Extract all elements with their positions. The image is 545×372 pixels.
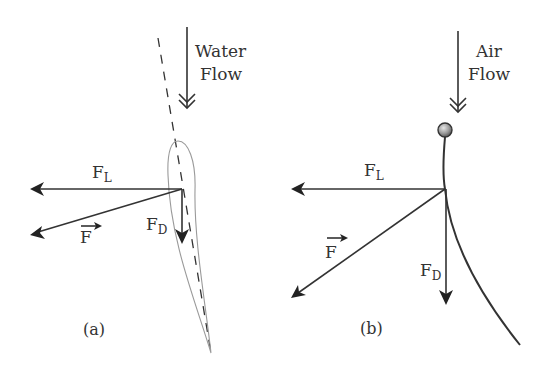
- ball-icon: [438, 123, 452, 137]
- hydrofoil-outline: [168, 141, 211, 353]
- drag-label-a: FD: [146, 214, 167, 237]
- air-flow-label-line1: Air: [475, 41, 503, 61]
- vector-mark-icon-b: [327, 234, 348, 242]
- air-flow-label-line2: Flow: [468, 64, 510, 84]
- water-flow-arrow: [179, 27, 195, 108]
- panel-a: Water Flow FL F FD (a): [30, 27, 247, 353]
- water-flow-label-line2: Flow: [200, 64, 242, 84]
- lift-label-b: FL: [364, 160, 384, 183]
- panel-label-b: (b): [360, 319, 383, 338]
- panel-label-a: (a): [83, 320, 105, 339]
- air-flow-arrow: [450, 31, 466, 112]
- resultant-label-a: F: [80, 227, 92, 247]
- panel-b: Air Flow FL F FD (b): [291, 31, 520, 345]
- resultant-force-arrow-b: [291, 189, 445, 298]
- force-diagram: Water Flow FL F FD (a): [0, 0, 545, 372]
- flexible-stem: [444, 137, 521, 345]
- lift-force-arrow-b: [291, 182, 445, 196]
- chord-line: [158, 38, 211, 353]
- drag-label-b: FD: [420, 260, 441, 283]
- water-flow-label-line1: Water: [195, 41, 247, 61]
- drag-force-arrow-a: [175, 189, 189, 244]
- drag-force-arrow-b: [439, 189, 453, 305]
- lift-label-a: FL: [92, 162, 112, 185]
- resultant-label-b: F: [325, 242, 337, 262]
